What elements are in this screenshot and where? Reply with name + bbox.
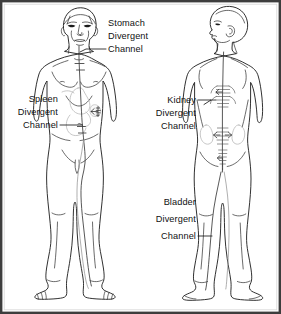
spleen-label-line-1: Spleen <box>29 94 58 104</box>
spleen-label-line-2: Divergent <box>18 107 59 117</box>
spleen-label-line-3: Channel <box>23 120 58 130</box>
kidney-label-line-1: Kidney <box>167 95 196 105</box>
divergent-channels-figure: Stomach Divergent Channel Spleen Diverge… <box>0 0 281 314</box>
stomach-label-line-2: Divergent <box>108 31 149 41</box>
kidney-label-line-2: Divergent <box>156 108 197 118</box>
diagram-canvas: Stomach Divergent Channel Spleen Diverge… <box>0 0 281 314</box>
bladder-label-line-2: Divergent <box>156 214 197 224</box>
bladder-label-line-3: Channel <box>161 231 196 241</box>
stomach-label-line-1: Stomach <box>108 18 145 28</box>
stomach-label-line-3: Channel <box>108 44 143 54</box>
kidney-label-line-3: Channel <box>161 121 196 131</box>
bladder-label-line-1: Bladder <box>164 197 196 207</box>
